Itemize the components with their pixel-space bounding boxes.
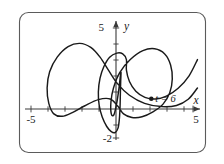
y-axis-label: y xyxy=(123,20,130,33)
x-axis-max-tick-label: 5 xyxy=(193,113,199,125)
parametric-plot: 5 -2 -5 5 y x t = 6 xyxy=(0,0,224,164)
y-axis-min-tick-label: -2 xyxy=(103,132,112,144)
y-axis-max-tick-label: 5 xyxy=(99,21,105,33)
t6-point-marker xyxy=(149,96,154,101)
x-axis-label: x xyxy=(192,94,199,106)
x-axis-min-tick-label: -5 xyxy=(26,113,36,125)
figure-container: 5 -2 -5 5 y x t = 6 xyxy=(0,0,224,164)
t6-annotation-label: t = 6 xyxy=(155,93,176,104)
